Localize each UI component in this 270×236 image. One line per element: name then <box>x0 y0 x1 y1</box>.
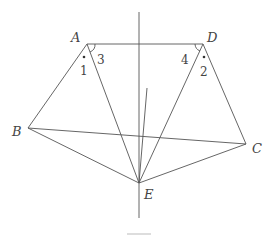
angle-1-mark <box>83 56 86 59</box>
segment-DE <box>139 44 203 183</box>
geometry-figure: A D B C E 1 2 3 4 <box>0 0 270 236</box>
label-D: D <box>206 30 218 45</box>
label-C: C <box>252 141 262 156</box>
segment-CE <box>139 144 246 183</box>
angle-2-mark <box>203 56 206 59</box>
label-A: A <box>70 30 80 45</box>
angle-3-arc <box>90 44 95 52</box>
label-E: E <box>143 187 154 202</box>
label-B: B <box>11 124 22 139</box>
segment-AE <box>87 44 139 183</box>
segment-BE <box>28 128 139 183</box>
segment-BC <box>28 128 246 144</box>
angle-4-label: 4 <box>181 53 189 67</box>
angle-2-label: 2 <box>200 65 208 79</box>
segment-DC <box>203 44 246 144</box>
angle-4-arc <box>195 44 200 51</box>
segment-AB <box>28 44 87 128</box>
angle-1-label: 1 <box>80 64 88 78</box>
angle-3-label: 3 <box>97 53 105 67</box>
